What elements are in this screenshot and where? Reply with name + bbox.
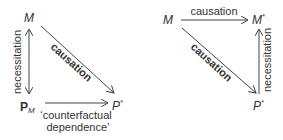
necessitation-label: necessitation [11,30,23,94]
node-m: M [24,11,34,25]
node-p-star-right-base: P [253,99,261,113]
node-p-star-superscript: * [120,99,123,106]
right-diagram: M M* P* causation causation necessitatio… [163,5,273,113]
node-pm-subscript: M [28,106,35,115]
causation-label: causation [49,40,95,83]
node-m-right: M [163,13,173,27]
node-p-star-right-superscript: * [261,99,264,106]
left-diagram: M PM P* necessitation causation ‘counter… [11,11,123,133]
node-m-star-base: M [252,13,262,27]
node-p-star-base: P [112,99,120,113]
node-m-star: M* [252,13,265,27]
diagram-canvas: M PM P* necessitation causation ‘counter… [0,0,283,140]
counterfactual-label-line1: ‘counterfactual [40,109,112,121]
causation-diagonal-label: causation [189,40,235,83]
node-p-star-right: P* [253,99,264,113]
necessitation-vertical-label: necessitation [261,28,273,92]
counterfactual-label-line2: dependence’ [46,121,109,133]
node-p-star: P* [112,99,123,113]
causation-horizontal-label: causation [190,5,237,17]
node-pm-base: P [20,100,28,114]
node-pm: PM [20,100,35,115]
node-m-star-superscript: * [262,13,265,20]
